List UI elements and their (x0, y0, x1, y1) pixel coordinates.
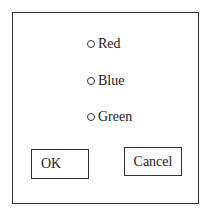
cancel-button[interactable]: Cancel (124, 147, 182, 176)
cancel-label: Cancel (134, 154, 173, 170)
radio-circle-icon[interactable] (87, 77, 95, 85)
ok-label: OK (41, 156, 61, 172)
ok-button[interactable]: OK (31, 149, 89, 179)
radio-option-blue[interactable]: Blue (87, 73, 124, 89)
radio-option-green[interactable]: Green (87, 109, 132, 125)
radio-label: Red (98, 36, 121, 52)
radio-option-red[interactable]: Red (87, 36, 121, 52)
radio-label: Green (98, 109, 132, 125)
radio-circle-icon[interactable] (87, 40, 95, 48)
radio-label: Blue (98, 73, 124, 89)
radio-circle-icon[interactable] (87, 113, 95, 121)
